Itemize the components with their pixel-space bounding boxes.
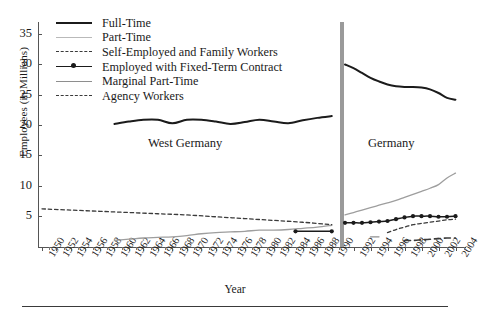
legend-label: Marginal Part-Time — [102, 74, 198, 89]
series-marker — [411, 214, 415, 218]
legend-swatch-self-employed — [56, 46, 92, 58]
legend-item-marginal-part-time: Marginal Part-Time — [56, 74, 282, 89]
legend-label: Full-Time — [102, 16, 151, 31]
footer-rule — [22, 306, 448, 307]
legend-swatch-full-time — [56, 17, 92, 29]
series-marker — [351, 221, 355, 225]
series-line — [405, 238, 456, 241]
legend-label: Part-Time — [102, 30, 151, 45]
series-marker — [343, 221, 347, 225]
legend-label: Employed with Fixed-Term Contract — [102, 60, 282, 75]
legend-item-part-time: Part-Time — [56, 31, 282, 46]
series-marker — [360, 221, 364, 225]
series-marker — [385, 219, 389, 223]
legend-swatch-part-time — [56, 32, 92, 44]
series-marker — [330, 229, 334, 233]
series-marker — [368, 220, 372, 224]
legend-swatch-agency-workers — [56, 90, 92, 102]
panel-label-germany: Germany — [368, 136, 415, 151]
series-marker — [419, 214, 423, 218]
chart-legend: Full-Time Part-Time Self-Employed and Fa… — [56, 16, 282, 104]
series-marker — [394, 217, 398, 221]
series-marker — [428, 214, 432, 218]
legend-item-agency-workers: Agency Workers — [56, 89, 282, 104]
legend-label: Self-Employed and Family Workers — [102, 45, 278, 60]
series-marker — [445, 215, 449, 219]
series-marker — [453, 214, 457, 218]
series-marker — [402, 215, 406, 219]
series-line — [42, 209, 332, 225]
legend-item-full-time: Full-Time — [56, 16, 282, 31]
legend-swatch-marginal-part-time — [56, 76, 92, 88]
series-marker — [293, 229, 297, 233]
series-line — [345, 173, 456, 215]
legend-item-self-employed: Self-Employed and Family Workers — [56, 45, 282, 60]
series-line — [114, 116, 331, 124]
legend-label: Agency Workers — [102, 89, 184, 104]
legend-swatch-fixed-term — [56, 61, 92, 73]
series-line — [345, 64, 456, 99]
series-marker — [377, 220, 381, 224]
series-marker — [436, 215, 440, 219]
series-line — [114, 225, 331, 240]
panel-label-west-germany: West Germany — [148, 136, 222, 151]
legend-item-fixed-term: Employed with Fixed-Term Contract — [56, 60, 282, 75]
series-line — [388, 219, 456, 232]
